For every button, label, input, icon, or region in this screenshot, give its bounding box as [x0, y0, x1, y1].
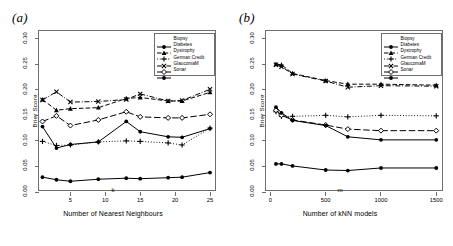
- y-tick-mark: [35, 166, 39, 167]
- legend-label: Sonar: [172, 67, 186, 73]
- data-point-plus: [378, 113, 383, 118]
- legend-label: Biopsy: [399, 36, 415, 42]
- legend-label: Diabetes: [172, 42, 192, 48]
- data-point-plus: [434, 113, 439, 118]
- panel-a-x-axis-caption: Number of Nearest Neighbours: [0, 210, 226, 217]
- legend-label: Dystrophy: [172, 48, 195, 54]
- y-tick-label: 0.20: [22, 81, 28, 97]
- data-point-circle-filled: [96, 177, 100, 181]
- data-point-plus: [166, 140, 171, 145]
- data-point-circle-filled: [346, 169, 350, 173]
- y-tick-label: 0.30: [22, 30, 28, 46]
- panel-b-x-axis-symbol: m: [227, 186, 453, 193]
- data-point-circle-filled: [138, 177, 142, 181]
- data-point-circle-filled: [180, 175, 184, 179]
- legend-label: German Credit: [399, 55, 431, 61]
- legend-key-circle-filled-icon: [156, 67, 172, 73]
- data-point-circle-filled: [96, 140, 100, 144]
- data-point-circle-filled: [69, 179, 73, 183]
- data-point-diamond: [180, 115, 185, 120]
- panel-b-plot-area: Brier Score BiopsyDiabetesDystrophyGerma…: [265, 30, 443, 191]
- data-point-circle-filled: [274, 105, 278, 109]
- data-point-circle-filled: [124, 120, 128, 124]
- data-point-cross: [54, 90, 58, 94]
- series-line-sonar: [276, 107, 436, 140]
- y-tick-mark: [262, 166, 266, 167]
- series-line-diabetes: [42, 92, 210, 110]
- data-point-plus: [138, 139, 143, 144]
- legend-item: Sonar: [156, 67, 213, 73]
- legend-label: Biopsy: [172, 36, 188, 42]
- data-point-plus: [124, 138, 129, 143]
- x-tick-label: 10: [95, 197, 115, 203]
- data-point-diamond: [378, 128, 383, 133]
- x-tick-label: 5: [60, 197, 80, 203]
- data-point-circle-filled: [379, 138, 383, 142]
- legend-key-circle-filled-icon: [156, 36, 172, 42]
- data-point-circle-filled: [346, 135, 350, 139]
- data-point-circle-filled: [434, 138, 438, 142]
- panel-b-label: (b): [239, 10, 255, 26]
- panel-a-y-axis-title: Brier Score: [31, 94, 38, 127]
- legend-label: Dystrophy: [399, 48, 422, 54]
- data-point-plus: [40, 139, 45, 144]
- legend-key-diamond-icon: [156, 61, 172, 67]
- data-point-plus: [345, 114, 350, 119]
- data-point-circle-filled: [291, 119, 295, 123]
- x-tick-label: 15: [130, 197, 150, 203]
- legend-key-plus-icon: [156, 48, 172, 54]
- series-line-dystrophy: [276, 112, 436, 117]
- y-tick-label: 0.05: [22, 157, 28, 173]
- data-point-diamond: [138, 114, 143, 119]
- data-point-triangle: [68, 106, 73, 111]
- data-point-diamond: [166, 115, 171, 120]
- y-tick-label: 0.10: [22, 132, 28, 148]
- x-tick-label: 1000: [371, 197, 391, 203]
- y-tick-label: 0.15: [22, 106, 28, 122]
- data-point-plus: [179, 142, 184, 147]
- data-point-diamond: [208, 112, 213, 117]
- y-tick-mark: [262, 140, 266, 141]
- y-tick-label: 0.25: [22, 55, 28, 71]
- legend-label: Sonar: [399, 67, 413, 73]
- y-tick-label: 0.15: [249, 106, 255, 122]
- x-tick-label: 20: [165, 197, 185, 203]
- legend-key-circle-filled-icon: [383, 67, 399, 73]
- data-point-circle-filled: [41, 175, 45, 179]
- y-tick-label: 0.20: [249, 81, 255, 97]
- x-tick-label: 500: [316, 197, 336, 203]
- data-point-plus: [323, 113, 328, 118]
- data-point-circle-filled: [208, 171, 212, 175]
- legend-label: Diabetes: [399, 42, 419, 48]
- y-tick-mark: [35, 115, 39, 116]
- data-point-circle-filled: [324, 168, 328, 172]
- data-point-circle-filled: [162, 76, 166, 80]
- panel-a-x-axis-symbol: k: [0, 186, 226, 193]
- data-point-circle-filled: [434, 166, 438, 170]
- data-point-circle-filled: [166, 176, 170, 180]
- x-tick-label: 1500: [426, 197, 446, 203]
- panel-b-x-axis-caption: Number of kNN models: [227, 210, 453, 217]
- data-point-circle-filled: [41, 125, 45, 129]
- data-point-cross: [68, 100, 72, 104]
- data-point-circle-filled: [389, 76, 393, 80]
- legend-label: German Credit: [172, 55, 204, 61]
- y-tick-mark: [35, 89, 39, 90]
- data-point-circle-filled: [274, 162, 278, 166]
- panel-b-y-axis-title: Brier Score: [258, 94, 265, 127]
- legend-key-circle-filled-icon: [383, 36, 399, 42]
- y-tick-label: 0.10: [249, 132, 255, 148]
- data-point-diamond: [345, 127, 350, 132]
- panel-a: (a) Brier Score BiopsyDiabetesDystrophyG…: [0, 0, 226, 246]
- y-tick-mark: [262, 64, 266, 65]
- legend-key-diamond-icon: [383, 61, 399, 67]
- panel-a-label: (a): [12, 10, 28, 26]
- data-point-diamond: [54, 113, 59, 118]
- y-tick-mark: [262, 89, 266, 90]
- y-tick-mark: [35, 64, 39, 65]
- data-point-circle-filled: [280, 162, 284, 166]
- series-line-biopsy: [276, 164, 436, 171]
- legend-key-triangle-icon: [383, 42, 399, 48]
- data-point-circle-filled: [280, 111, 284, 115]
- figure-root: (a) Brier Score BiopsyDiabetesDystrophyG…: [0, 0, 453, 246]
